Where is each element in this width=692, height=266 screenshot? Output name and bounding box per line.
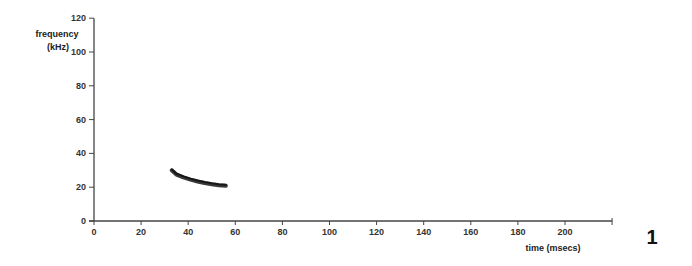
y-tick-label: 60 [76, 115, 86, 125]
x-tick-label: 20 [136, 227, 146, 237]
y-tick-label: 80 [76, 81, 86, 91]
figure-number: 1 [646, 226, 657, 248]
x-tick-label: 60 [230, 227, 240, 237]
x-tick-label: 140 [416, 227, 431, 237]
x-axis: 020406080100120140160180200 [89, 218, 612, 237]
x-tick-label: 100 [322, 227, 337, 237]
y-axis: 020406080100120 [71, 13, 94, 226]
y-axis-title-line1: frequency [35, 29, 78, 39]
x-tick-label: 120 [369, 227, 384, 237]
call-trace [172, 169, 226, 186]
x-tick-label: 200 [557, 227, 572, 237]
spectrogram-chart: 020406080100120 020406080100120140160180… [0, 0, 692, 266]
x-tick-label: 80 [277, 227, 287, 237]
y-tick-label: 20 [76, 182, 86, 192]
x-tick-label: 180 [510, 227, 525, 237]
y-tick-label: 40 [76, 148, 86, 158]
y-tick-label: 120 [71, 13, 86, 23]
x-axis-title: time (msecs) [525, 243, 580, 253]
x-tick-label: 40 [183, 227, 193, 237]
x-tick-label: 160 [463, 227, 478, 237]
y-tick-label: 0 [81, 216, 86, 226]
y-axis-title-line2: (kHz) [47, 42, 69, 52]
x-tick-label: 0 [91, 227, 96, 237]
y-tick-label: 100 [71, 47, 86, 57]
